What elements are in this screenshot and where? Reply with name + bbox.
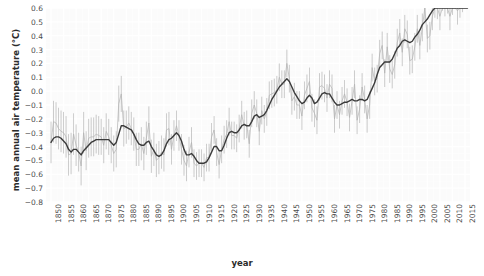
y-tick-label: −0.1: [3, 101, 43, 110]
y-tick-label: 0.4: [3, 31, 43, 40]
x-tick-label: 1925: [242, 204, 251, 223]
x-axis-title: year: [0, 258, 484, 268]
y-tick-label: 0.5: [3, 17, 43, 26]
y-tick-label: 0.6: [3, 4, 43, 13]
x-tick-label: 1930: [255, 204, 264, 223]
x-tick-label: 1850: [54, 204, 63, 223]
x-tick-label: 1855: [67, 204, 76, 223]
x-tick-label: 1870: [104, 204, 113, 223]
x-tick-label: 1875: [117, 204, 126, 223]
chart-root: mean annual air temperature (°C) 0.60.50…: [0, 0, 484, 276]
plot-canvas: [46, 8, 470, 202]
x-tick-label: 2010: [455, 204, 464, 223]
x-tick-label: 1945: [292, 204, 301, 223]
x-tick-label: 1990: [405, 204, 414, 223]
x-tick-label: 2015: [468, 204, 477, 223]
x-tick-label: 1935: [267, 204, 276, 223]
x-tick-label: 1880: [129, 204, 138, 223]
x-tick-label: 1975: [368, 204, 377, 223]
x-tick-label: 1960: [330, 204, 339, 223]
x-tick-label: 2000: [430, 204, 439, 223]
x-tick-label: 1940: [280, 204, 289, 223]
x-tick-label: 1900: [179, 204, 188, 223]
x-tick-label: 1970: [355, 204, 364, 223]
y-tick-label: 0.2: [3, 59, 43, 68]
y-tick-label: −0.2: [3, 114, 43, 123]
x-tick-label: 1895: [167, 204, 176, 223]
x-tick-label: 1915: [217, 204, 226, 223]
x-tick-label: 1955: [317, 204, 326, 223]
y-tick-label: −0.3: [3, 128, 43, 137]
y-tick-label: 0.1: [3, 73, 43, 82]
y-tick-label: −0.8: [3, 198, 43, 207]
y-tick-label: −0.6: [3, 170, 43, 179]
x-tick-label: 1950: [305, 204, 314, 223]
x-tick-label: 1920: [230, 204, 239, 223]
x-tick-label: 1885: [142, 204, 151, 223]
y-tick-label: −0.4: [3, 142, 43, 151]
x-tick-label: 1980: [380, 204, 389, 223]
plot-panel: [46, 8, 470, 202]
x-tick-label: 1860: [79, 204, 88, 223]
y-axis-tick-labels: 0.60.50.40.30.20.10.0−0.1−0.2−0.3−0.4−0.…: [0, 8, 43, 202]
x-tick-label: 1905: [192, 204, 201, 223]
y-tick-label: 0.3: [3, 45, 43, 54]
x-tick-label: 1890: [154, 204, 163, 223]
x-axis-tick-labels: 1850185518601865187018751880188518901895…: [46, 204, 470, 250]
y-tick-label: −0.7: [3, 184, 43, 193]
x-tick-label: 1910: [205, 204, 214, 223]
x-tick-label: 1985: [393, 204, 402, 223]
y-tick-label: 0.0: [3, 87, 43, 96]
x-tick-label: 1965: [343, 204, 352, 223]
x-tick-label: 2005: [443, 204, 452, 223]
x-tick-label: 1865: [92, 204, 101, 223]
x-tick-label: 1995: [418, 204, 427, 223]
y-tick-label: −0.5: [3, 156, 43, 165]
